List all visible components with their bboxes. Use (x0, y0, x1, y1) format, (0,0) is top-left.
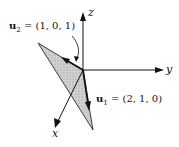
z-axis-label: z (88, 6, 94, 19)
y-axis (83, 67, 164, 73)
u1-value: = (2, 1, 0) (111, 93, 162, 104)
u2-subscript: 2 (16, 26, 20, 34)
z-axis (80, 12, 86, 70)
u2-vector-label: u2 = (1, 0, 1) (9, 20, 75, 34)
u1-vector-label: u1 = (2, 1, 0) (96, 93, 162, 107)
vector-diagram: z y x u2 = (1, 0, 1) u1 = (2, 1, 0) (0, 0, 179, 147)
u2-label-pointer (72, 36, 79, 62)
y-axis-label: y (166, 63, 172, 76)
u2-value: = (1, 0, 1) (24, 20, 75, 31)
u1-subscript: 1 (103, 99, 107, 107)
x-axis-label: x (52, 127, 58, 140)
